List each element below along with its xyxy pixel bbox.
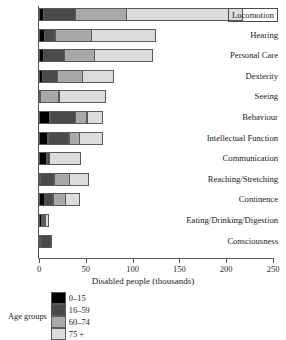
- bar-segment[interactable]: [94, 49, 153, 62]
- x-tick: [39, 258, 40, 263]
- bar-segment[interactable]: [65, 193, 80, 206]
- bar-segment[interactable]: [59, 90, 107, 103]
- legend-label: 16–59: [69, 306, 90, 315]
- legend-title: Age groups: [8, 312, 47, 321]
- bar-segment[interactable]: [40, 90, 59, 103]
- category-label: Behaviour: [242, 111, 278, 124]
- stacked-bar[interactable]: [39, 193, 80, 206]
- legend-swatch: [51, 328, 66, 340]
- x-tick: [226, 258, 227, 263]
- x-tick: [273, 258, 274, 263]
- category-label: Hearing: [250, 29, 278, 42]
- bar-segment[interactable]: [87, 111, 103, 124]
- bar-segment[interactable]: [57, 70, 82, 83]
- bar-segment[interactable]: [44, 29, 55, 42]
- stacked-bar[interactable]: [39, 235, 52, 248]
- bar-segment[interactable]: [40, 173, 54, 186]
- stacked-bar[interactable]: [39, 70, 114, 83]
- bar-segment[interactable]: [43, 8, 76, 21]
- legend-swatch: [51, 316, 66, 328]
- legend-item[interactable]: 60–74: [51, 316, 90, 328]
- legend-item[interactable]: 16–59: [51, 304, 90, 316]
- bar-segment[interactable]: [39, 111, 50, 124]
- x-tick: [179, 258, 180, 263]
- bar-segment[interactable]: [43, 49, 65, 62]
- x-tick: [133, 258, 134, 263]
- stacked-bar[interactable]: [39, 8, 243, 21]
- bar-segment[interactable]: [64, 49, 95, 62]
- bar-segment[interactable]: [45, 214, 50, 227]
- stacked-bar[interactable]: [39, 111, 103, 124]
- bar-segment[interactable]: [40, 235, 51, 248]
- stacked-bar[interactable]: [39, 214, 49, 227]
- x-tick-label: 0: [37, 264, 41, 274]
- legend-label: 75 +: [69, 330, 84, 339]
- stacked-bar[interactable]: [39, 90, 106, 103]
- bar-segment[interactable]: [53, 193, 66, 206]
- x-tick-label: 100: [126, 264, 139, 274]
- bar-segment[interactable]: [48, 132, 70, 145]
- category-label: Communication: [223, 152, 278, 165]
- x-axis-title: Disabled people (thousands): [0, 276, 286, 286]
- bar-segment[interactable]: [55, 29, 92, 42]
- stacked-bar[interactable]: [39, 173, 89, 186]
- legend-swatch: [51, 292, 66, 304]
- category-label: Locomotion: [228, 8, 278, 22]
- bar-segment[interactable]: [91, 29, 156, 42]
- category-label: Intellectual Function: [207, 132, 278, 145]
- legend-label: 60–74: [69, 318, 90, 327]
- x-axis-line: [38, 258, 274, 259]
- stacked-bar[interactable]: [39, 132, 103, 145]
- bar-segment[interactable]: [69, 173, 89, 186]
- legend-swatch: [51, 304, 66, 316]
- bar-segment[interactable]: [75, 8, 126, 21]
- stacked-bar[interactable]: [39, 152, 81, 165]
- bar-segment[interactable]: [82, 70, 114, 83]
- x-tick-label: 250: [267, 264, 280, 274]
- bar-segment[interactable]: [50, 111, 76, 124]
- stacked-bar[interactable]: [39, 29, 156, 42]
- legend-item[interactable]: 75 +: [51, 328, 90, 340]
- chart-legend: Age groups 0–1516–5960–7475 +: [8, 305, 286, 327]
- legend-label: 0–15: [69, 294, 86, 303]
- x-tick-label: 200: [220, 264, 233, 274]
- x-tick-label: 50: [82, 264, 91, 274]
- bar-segment[interactable]: [79, 132, 102, 145]
- category-label: Seeing: [255, 90, 278, 103]
- x-tick-label: 150: [173, 264, 186, 274]
- bar-segment[interactable]: [42, 70, 58, 83]
- category-label: Dexterity: [246, 70, 278, 83]
- category-label: Continence: [239, 193, 278, 206]
- stacked-bar[interactable]: [39, 49, 153, 62]
- category-label: Reaching/Stretching: [208, 173, 278, 186]
- bar-segment[interactable]: [75, 111, 87, 124]
- bar-segment[interactable]: [126, 8, 243, 21]
- bar-segment[interactable]: [54, 173, 70, 186]
- legend-item[interactable]: 0–15: [51, 292, 90, 304]
- category-label: Eating/Drinking/Digestion: [186, 214, 278, 227]
- category-label: Personal Care: [230, 49, 278, 62]
- bar-segment[interactable]: [49, 152, 81, 165]
- bar-segment[interactable]: [69, 132, 80, 145]
- x-tick: [86, 258, 87, 263]
- category-label: Consciousness: [227, 235, 278, 248]
- legend-items: 0–1516–5960–7475 +: [51, 292, 94, 340]
